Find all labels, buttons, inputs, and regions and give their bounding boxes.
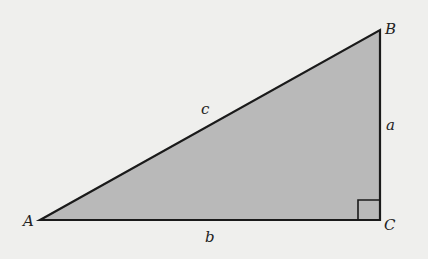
right-triangle-diagram: A B C c a b xyxy=(0,0,428,259)
vertex-label-c: C xyxy=(384,216,396,234)
triangle-shape xyxy=(40,30,380,220)
vertex-label-a: A xyxy=(21,212,34,230)
side-label-b: b xyxy=(205,228,215,246)
vertex-label-b: B xyxy=(384,20,396,38)
side-label-a: a xyxy=(386,116,395,134)
side-label-c: c xyxy=(201,100,210,118)
